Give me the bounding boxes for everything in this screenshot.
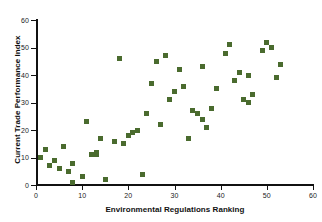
data-point bbox=[43, 147, 48, 152]
data-point bbox=[278, 62, 283, 67]
data-point bbox=[274, 75, 279, 80]
data-point bbox=[103, 177, 108, 182]
data-point bbox=[181, 84, 186, 89]
data-point bbox=[66, 169, 71, 174]
data-point bbox=[163, 53, 168, 58]
data-point bbox=[154, 59, 159, 64]
data-point bbox=[195, 111, 200, 116]
data-point bbox=[57, 166, 62, 171]
data-point bbox=[47, 163, 52, 168]
x-axis-title: Environmental Regulations Ranking bbox=[36, 205, 314, 214]
data-point bbox=[172, 89, 177, 94]
data-point bbox=[260, 48, 265, 53]
data-point bbox=[52, 158, 57, 163]
data-point bbox=[117, 56, 122, 61]
data-point bbox=[84, 119, 89, 124]
data-point bbox=[80, 174, 85, 179]
data-point bbox=[269, 45, 274, 50]
data-point bbox=[177, 67, 182, 72]
data-point bbox=[149, 81, 154, 86]
data-point bbox=[112, 139, 117, 144]
data-point bbox=[94, 152, 99, 157]
data-point bbox=[167, 97, 172, 102]
data-point bbox=[237, 70, 242, 75]
data-point bbox=[140, 172, 145, 177]
data-point bbox=[246, 100, 251, 105]
data-point bbox=[246, 73, 251, 78]
data-point bbox=[135, 128, 140, 133]
data-point bbox=[264, 40, 269, 45]
data-point bbox=[61, 144, 66, 149]
data-point bbox=[70, 161, 75, 166]
data-point bbox=[200, 64, 205, 69]
data-point bbox=[223, 51, 228, 56]
data-point bbox=[70, 180, 75, 185]
data-point bbox=[232, 78, 237, 83]
data-point bbox=[186, 136, 191, 141]
data-point bbox=[214, 86, 219, 91]
data-point bbox=[250, 92, 255, 97]
data-point bbox=[209, 106, 214, 111]
data-point bbox=[158, 122, 163, 127]
data-point bbox=[200, 117, 205, 122]
scatter-chart: 0102030405060 0102030405060 Environmenta… bbox=[0, 0, 322, 222]
y-axis-title: Current Trade Performance Index bbox=[13, 15, 22, 185]
data-point bbox=[121, 141, 126, 146]
data-point bbox=[204, 125, 209, 130]
data-point bbox=[98, 136, 103, 141]
data-point bbox=[227, 42, 232, 47]
data-point bbox=[144, 111, 149, 116]
plot-area bbox=[0, 0, 322, 222]
data-point bbox=[38, 155, 43, 160]
